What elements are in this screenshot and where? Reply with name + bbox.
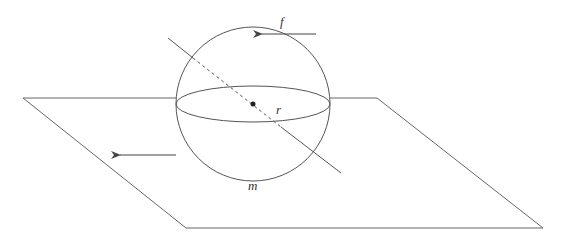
axis-dashed-inner: [193, 58, 281, 127]
axis-outer-top: [168, 38, 193, 58]
plane: [23, 98, 543, 228]
sphere-center-dot: [251, 102, 256, 107]
diagram-canvas: f r m: [0, 0, 561, 243]
radius-label: r: [276, 102, 282, 117]
mass-label: m: [248, 178, 257, 193]
axis-outer-bottom: [281, 127, 341, 173]
plane-left-edge: [23, 98, 186, 228]
diagram-svg: f r m: [0, 0, 561, 243]
force-label: f: [280, 14, 286, 29]
plane-right-edge: [377, 98, 543, 228]
